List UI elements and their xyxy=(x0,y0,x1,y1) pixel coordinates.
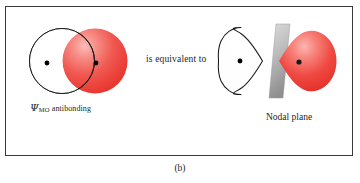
figure-root: ΨMO antibonding is equivalent to Nodal p… xyxy=(0,0,360,183)
orbital-diagram xyxy=(0,0,360,160)
left-red-orbital-nucleus xyxy=(94,61,99,66)
is-equivalent-to-label: is equivalent to xyxy=(146,55,206,65)
antibonding-text: antibonding xyxy=(50,104,91,113)
psi-symbol: Ψ xyxy=(30,102,39,113)
right-red-orbital-nucleus xyxy=(296,59,301,64)
figure-caption: (b) xyxy=(0,163,360,173)
right-white-orbital-nucleus xyxy=(238,59,243,64)
mo-antibonding-label: ΨMO antibonding xyxy=(30,103,91,114)
mo-subscript: MO xyxy=(39,106,50,113)
left-white-orbital-nucleus xyxy=(45,61,50,66)
right-orbital-pair xyxy=(218,24,336,98)
left-orbital-pair xyxy=(30,29,128,94)
nodal-plane-label: Nodal plane xyxy=(266,112,326,124)
